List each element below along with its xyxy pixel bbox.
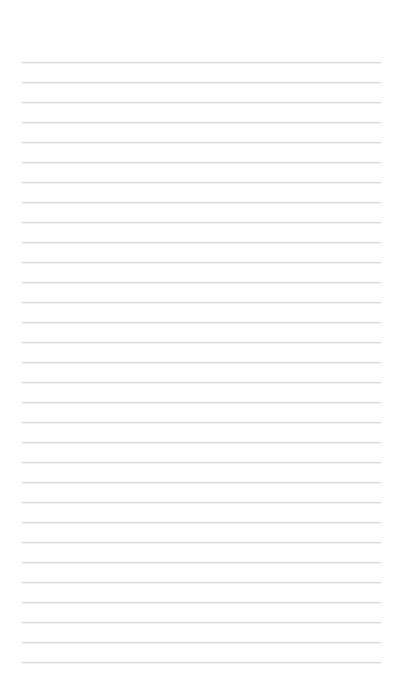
ruled-writing-area[interactable] <box>0 0 403 698</box>
rule-line <box>22 222 381 223</box>
rule-line <box>22 602 381 603</box>
rule-line <box>22 342 381 343</box>
rule-line <box>22 382 381 383</box>
rule-line <box>22 62 381 63</box>
rule-line <box>22 202 381 203</box>
rule-line <box>22 542 381 543</box>
rule-line <box>22 182 381 183</box>
rule-line <box>22 262 381 263</box>
rule-line <box>22 302 381 303</box>
rule-line <box>22 402 381 403</box>
rule-line <box>22 582 381 583</box>
rule-line <box>22 522 381 523</box>
rule-line <box>22 282 381 283</box>
rule-line <box>22 502 381 503</box>
rule-line <box>22 142 381 143</box>
rule-line <box>22 122 381 123</box>
rule-line <box>22 662 381 663</box>
rule-line <box>22 462 381 463</box>
rule-line <box>22 362 381 363</box>
rule-line <box>22 622 381 623</box>
rule-line <box>22 82 381 83</box>
rule-line <box>22 562 381 563</box>
rule-line <box>22 162 381 163</box>
rule-line <box>22 442 381 443</box>
rule-line <box>22 482 381 483</box>
rule-line <box>22 322 381 323</box>
rule-line <box>22 102 381 103</box>
rule-line <box>22 422 381 423</box>
rule-line <box>22 642 381 643</box>
rule-line <box>22 242 381 243</box>
lined-paper-page <box>0 0 403 698</box>
